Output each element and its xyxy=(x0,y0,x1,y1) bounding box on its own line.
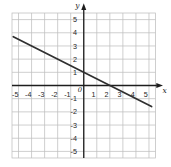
x-tick-label: 1 xyxy=(91,90,95,99)
x-tick-label: -2 xyxy=(51,90,57,99)
y-tick-label: -5 xyxy=(71,147,77,156)
y-tick-label: -4 xyxy=(71,134,77,143)
y-axis-label: y xyxy=(74,1,80,10)
y-tick-label: -2 xyxy=(71,107,77,116)
x-tick-label: 2 xyxy=(105,90,109,99)
y-tick-label: -3 xyxy=(71,121,77,130)
y-tick-label: 4 xyxy=(73,28,77,37)
x-tick-label: -4 xyxy=(25,90,31,99)
origin-label: 0 xyxy=(78,86,83,94)
coordinate-plane-figure: -5-4-3-2-112345-5-4-3-2-1123450xy xyxy=(0,0,171,167)
y-tick-label: 2 xyxy=(73,55,77,64)
canvas-background xyxy=(0,0,171,167)
y-tick-label: 5 xyxy=(73,15,77,24)
x-tick-label: 5 xyxy=(144,90,148,99)
graph-svg: -5-4-3-2-112345-5-4-3-2-1123450xy xyxy=(0,0,171,167)
y-tick-label: -1 xyxy=(71,94,77,103)
x-tick-label: -3 xyxy=(38,90,44,99)
x-tick-label: -5 xyxy=(12,90,18,99)
y-tick-label: 3 xyxy=(73,42,77,51)
